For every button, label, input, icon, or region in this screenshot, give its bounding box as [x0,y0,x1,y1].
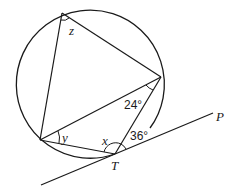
label-36-degrees: 36° [130,129,148,143]
chord-top-left [40,13,62,140]
label-24-degrees: 24° [124,98,142,112]
label-x: x [101,133,108,148]
angle-arc-z [61,18,69,20]
angle-arc-y [58,131,60,143]
label-point-P: P [215,109,224,124]
angle-arc-36 [121,144,126,149]
label-point-T: T [111,158,119,173]
geometry-figure: z 24° y x 36° T P [0,0,234,194]
chord-top-right [62,13,161,77]
tangent-line [41,113,213,185]
angle-arc-24 [146,85,153,90]
label-z: z [68,23,74,38]
label-y: y [60,130,68,145]
diagram-canvas: z 24° y x 36° T P [0,0,234,194]
